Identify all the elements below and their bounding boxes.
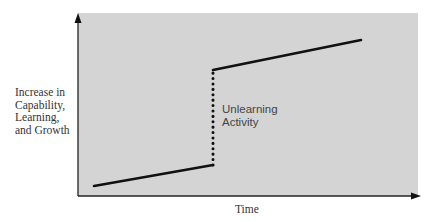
y-label-line: and Growth <box>15 124 70 137</box>
y-label-line: Capability, <box>15 99 70 112</box>
y-axis-label: Increase in Capability, Learning, and Gr… <box>15 86 70 136</box>
unlearning-annotation: Unlearning Activity <box>222 103 278 128</box>
y-label-line: Increase in <box>15 86 70 99</box>
annotation-line: Activity <box>222 116 278 129</box>
annotation-line: Unlearning <box>222 103 278 116</box>
y-label-line: Learning, <box>15 111 70 124</box>
x-axis-label: Time <box>235 203 259 215</box>
